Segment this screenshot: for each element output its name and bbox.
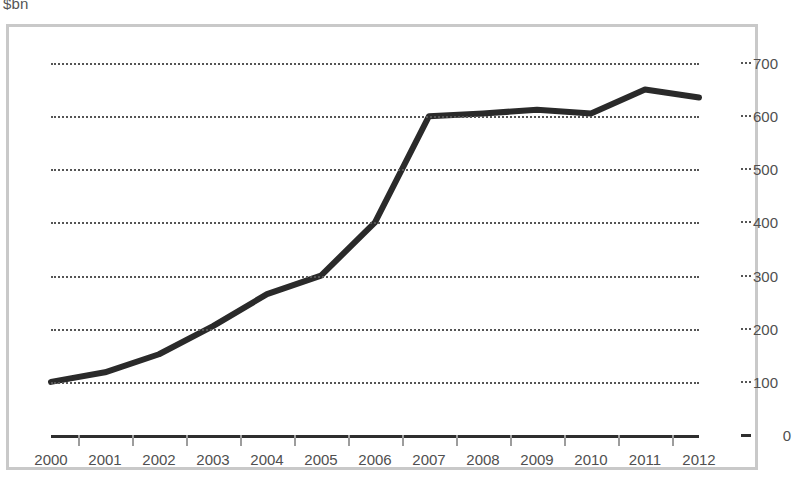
y-axis-tick-label: 0 — [753, 427, 791, 444]
gridline — [51, 329, 699, 331]
line-series-svg — [51, 63, 699, 435]
y-axis-tick-label: 400 — [753, 214, 796, 231]
y-axis-unit-label: $bn — [3, 0, 29, 12]
gridline — [51, 63, 699, 65]
x-axis-tick-label: 2006 — [358, 451, 391, 468]
x-axis-tick-label: 2005 — [304, 451, 337, 468]
y-axis-tick-label: 100 — [753, 373, 796, 390]
y-tick-lead — [741, 434, 751, 437]
x-axis-tick-label: 2010 — [574, 451, 607, 468]
x-axis-tick-label: 2004 — [250, 451, 283, 468]
x-axis-tick-label: 2011 — [629, 451, 661, 468]
y-tick-lead — [741, 381, 751, 383]
x-axis-tick-mark — [240, 435, 242, 446]
x-axis-tick-label: 2002 — [142, 451, 175, 468]
chart-frame: 0100200300400500600700 20002001200220032… — [6, 24, 758, 470]
x-axis-tick-mark — [186, 435, 188, 446]
x-axis-tick-label: 2001 — [88, 451, 121, 468]
x-axis-tick-mark — [294, 435, 296, 446]
y-axis-tick-label: 600 — [753, 108, 796, 125]
x-axis-tick-label: 2012 — [682, 451, 715, 468]
x-axis-tick-mark — [78, 435, 80, 446]
y-axis-tick-label: 700 — [753, 55, 796, 72]
x-axis-tick-mark — [132, 435, 134, 446]
x-axis-tick-mark — [672, 435, 674, 446]
y-axis-tick-label: 500 — [753, 161, 796, 178]
x-axis-tick-mark — [456, 435, 458, 446]
y-tick-lead — [741, 275, 751, 277]
x-axis-tick-mark — [510, 435, 512, 446]
x-axis-tick-label: 2000 — [34, 451, 67, 468]
y-axis-tick-label: 200 — [753, 320, 796, 337]
x-axis: 2000200120022003200420052006200720082009… — [51, 435, 699, 475]
y-axis-tick-label: 300 — [753, 267, 796, 284]
y-tick-lead — [741, 221, 751, 223]
y-tick-lead — [741, 328, 751, 330]
gridline — [51, 222, 699, 224]
x-axis-tick-label: 2008 — [466, 451, 499, 468]
plot-area: 0100200300400500600700 — [51, 63, 699, 435]
gridline — [51, 116, 699, 118]
gridline — [51, 276, 699, 278]
x-axis-tick-mark — [402, 435, 404, 446]
gridline — [51, 382, 699, 384]
x-axis-tick-mark — [618, 435, 620, 446]
x-axis-tick-mark — [348, 435, 350, 446]
gridline — [51, 169, 699, 171]
y-tick-lead — [741, 168, 751, 170]
x-axis-tick-label: 2009 — [520, 451, 553, 468]
x-axis-tick-label: 2003 — [196, 451, 229, 468]
y-tick-lead — [741, 62, 751, 64]
data-line-series — [51, 90, 699, 382]
y-tick-lead — [741, 115, 751, 117]
x-axis-tick-mark — [564, 435, 566, 446]
x-axis-tick-label: 2007 — [412, 451, 445, 468]
